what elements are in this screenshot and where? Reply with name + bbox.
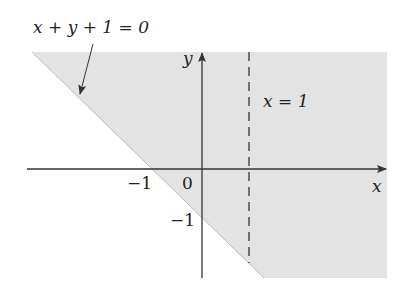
equation-label: x + y + 1 = 0 xyxy=(33,17,149,37)
y-tick-label: −1 xyxy=(170,210,195,230)
origin-label: 0 xyxy=(182,173,193,193)
x-tick-label: −1 xyxy=(127,173,152,193)
y-axis-label: y xyxy=(182,48,193,68)
region-diagram: x + y + 1 = 0 x = 1 y x 0 −1 −1 xyxy=(0,0,408,297)
vertical-line-label: x = 1 xyxy=(263,91,308,111)
x-axis-label: x xyxy=(372,176,382,196)
shaded-region xyxy=(32,52,387,278)
